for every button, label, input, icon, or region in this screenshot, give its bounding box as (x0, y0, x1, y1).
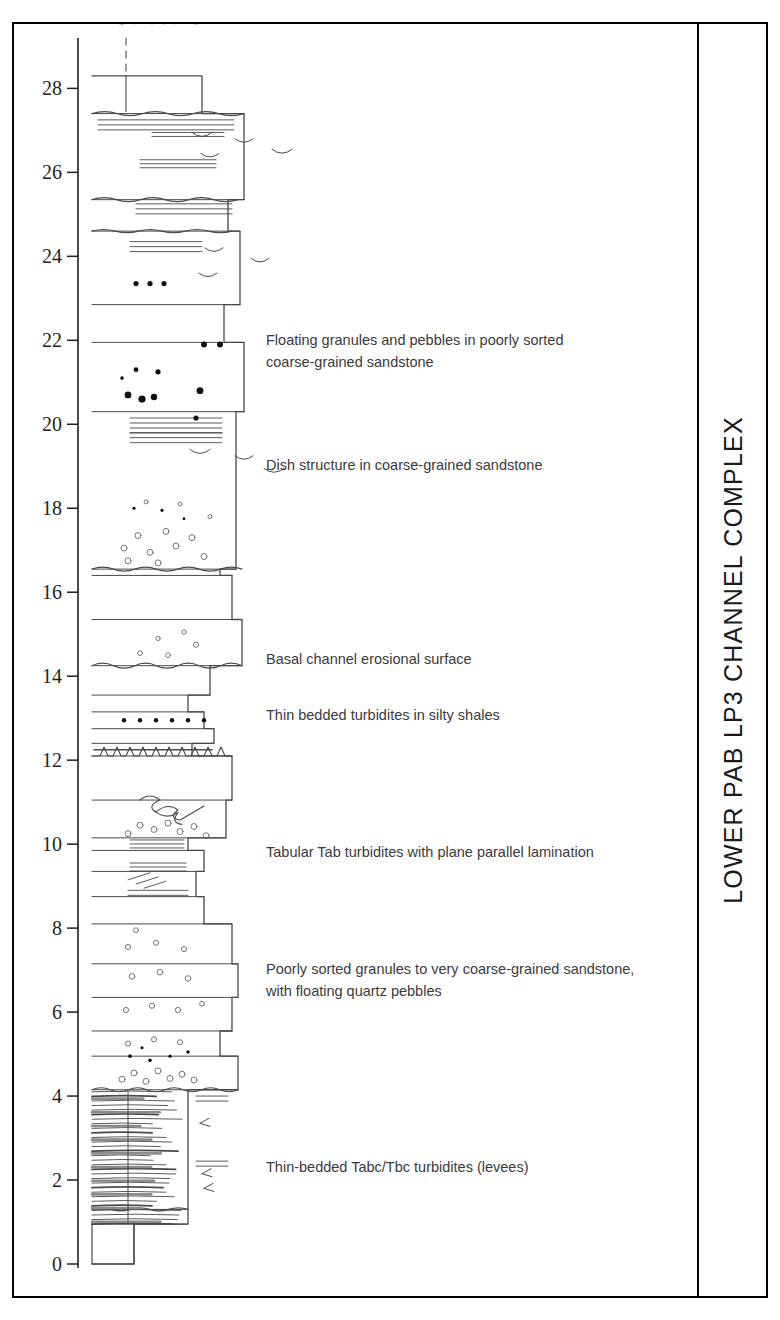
ann-floating-granules-line-2: coarse-grained sandstone (266, 354, 434, 370)
dish-structure-arc (205, 248, 223, 252)
ann-basal-channel: Basal channel erosional surface (266, 651, 472, 667)
granule-symbol (138, 651, 143, 656)
pebble-symbol (140, 1046, 143, 1049)
pebble-symbol (151, 394, 157, 400)
thin-bed-lamina (92, 1196, 174, 1197)
figure-frame: 0246810121416182022242628Floating granul… (12, 22, 768, 1298)
granule-symbol (181, 947, 186, 952)
ann-floating-granules-line-1: Floating granules and pebbles in poorly … (266, 332, 563, 348)
axis-tick-label-18: 18 (42, 497, 62, 519)
granule-symbol (175, 1007, 180, 1012)
granule-symbol (125, 944, 130, 949)
pebble-symbol (138, 395, 145, 402)
thin-bed-lamina (92, 1137, 166, 1138)
dish-structure-arc (201, 153, 219, 157)
ann-poorly-sorted-line-1: Poorly sorted granules to very coarse-gr… (266, 961, 634, 977)
granule-symbol (151, 1037, 156, 1042)
pebble-symbol (154, 718, 158, 722)
thin-bed-lamina (92, 1214, 179, 1215)
pebble-symbol (186, 718, 190, 722)
pebble-symbol (170, 718, 174, 722)
axis-tick-label-2: 2 (52, 1169, 62, 1191)
thin-bed-lamina (92, 1100, 174, 1101)
axis-tick-label-16: 16 (42, 581, 62, 603)
thin-bed-lamina (92, 1164, 166, 1165)
granule-symbol (134, 928, 139, 933)
ann-thin-bedded-silty: Thin bedded turbidites in silty shales (266, 707, 500, 723)
thin-bed-lamina (92, 1219, 177, 1220)
axis-tick-label-0: 0 (52, 1253, 62, 1275)
pebble-symbol (128, 1054, 132, 1058)
dish-structure-arc (190, 449, 210, 453)
trace-fossil-squiggle (154, 811, 182, 825)
ann-poorly-sorted-line-2: with floating quartz pebbles (265, 983, 442, 999)
pebble-symbol (161, 281, 166, 286)
granule-symbol (178, 502, 182, 506)
thin-bed-lamina (92, 1159, 153, 1160)
thin-bed-lamina (92, 1223, 174, 1224)
pebble-symbol (160, 509, 163, 512)
dish-structure-arc (192, 132, 212, 136)
cross-lamina-tick (128, 873, 150, 880)
granule-symbol (119, 1076, 125, 1082)
thin-bed-lamina (92, 1178, 170, 1179)
granule-symbol (177, 829, 183, 835)
thin-bed-lamina (92, 1169, 176, 1170)
axis-tick-label-28: 28 (42, 77, 62, 99)
granule-symbol (191, 824, 197, 830)
granule-symbol (182, 630, 186, 634)
pebble-symbol (197, 387, 204, 394)
granule-symbol (179, 1071, 185, 1077)
thin-bed-lamina (92, 1114, 158, 1115)
granule-symbol (208, 515, 212, 519)
axis-tick-label-14: 14 (42, 665, 62, 687)
granule-symbol (123, 1007, 128, 1012)
granule-symbol (155, 1068, 161, 1074)
pebble-symbol (168, 1055, 171, 1058)
thin-bed-lamina (92, 1146, 160, 1147)
log-column-outline (92, 76, 244, 1264)
axis-tick-label-22: 22 (42, 329, 62, 351)
ripple-tick (202, 1169, 212, 1177)
granule-symbol (125, 1041, 130, 1046)
thin-bed-lamina (92, 1141, 171, 1142)
pebble-symbol (132, 507, 135, 510)
granule-symbol (125, 831, 131, 837)
pebble-symbol (202, 718, 206, 722)
axis-tick-label-26: 26 (42, 161, 62, 183)
ann-dish-structure: Dish structure in coarse-grained sandsto… (266, 457, 542, 473)
granule-symbol (173, 543, 179, 549)
dish-structure-arc (235, 456, 253, 460)
thin-bed-lamina (92, 1201, 156, 1202)
granule-symbol (147, 549, 153, 555)
pebble-symbol (122, 718, 126, 722)
thin-bed-lamina (92, 1128, 162, 1129)
thin-bed-lamina (92, 1173, 176, 1174)
granule-symbol (155, 560, 161, 566)
granule-symbol (157, 969, 163, 975)
granule-symbol (185, 976, 191, 982)
cross-lamina-tick (136, 877, 158, 884)
granule-symbol (189, 535, 195, 541)
axis-tick-label-6: 6 (52, 1001, 62, 1023)
axis-tick-label-12: 12 (42, 749, 62, 771)
pebble-symbol (155, 369, 160, 374)
pebble-symbol (217, 342, 223, 348)
thin-bed-lamina (92, 1109, 177, 1110)
dish-structure-arc (199, 273, 217, 277)
ripple-tick (200, 1118, 210, 1126)
thin-bed-lamina (92, 1205, 152, 1206)
granule-symbol (151, 826, 157, 832)
axis-tick-label-4: 4 (52, 1085, 62, 1107)
pebble-symbol (134, 367, 139, 372)
granule-symbol (135, 533, 141, 539)
stratigraphic-log-panel: 0246810121416182022242628Floating granul… (14, 24, 699, 1296)
dish-structure-arc (251, 258, 269, 262)
pebble-symbol (201, 342, 207, 348)
thin-bed-lamina (92, 1210, 181, 1211)
pebble-symbol (120, 376, 124, 380)
log-column-graphic (92, 24, 292, 1264)
thin-bed-lamina (92, 1091, 172, 1092)
granule-symbol (153, 940, 158, 945)
thin-bed-lamina (92, 1132, 152, 1133)
